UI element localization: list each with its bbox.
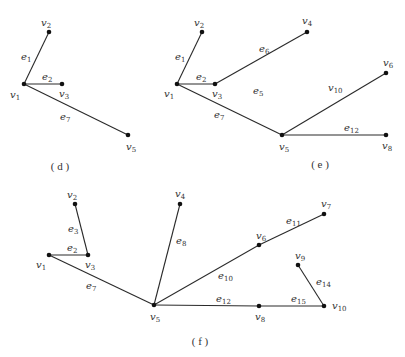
- vertex-dot: [178, 202, 183, 207]
- vertex-label: v1: [36, 259, 46, 272]
- vertex-label: v1: [164, 88, 174, 101]
- vertex-label-subscript: 10: [338, 305, 347, 313]
- vertex-label-subscript: 2: [73, 194, 77, 202]
- edge-label-subscript: 7: [66, 116, 70, 124]
- vertex-label: v6: [256, 230, 267, 243]
- edge-label-subscript: 10: [334, 87, 343, 95]
- edge-label: e2: [42, 71, 52, 84]
- edge-label: e10: [218, 270, 233, 283]
- edge-label: e12: [344, 122, 359, 135]
- edge-label: e11: [286, 215, 301, 228]
- vertex-label-subscript: 3: [218, 93, 222, 101]
- panel-f-spanning-tree: e3e2e7e8e10e11e12e15e14v1v2v3v4v5v6v7v8v…: [36, 188, 347, 348]
- vertex-label: v2: [41, 17, 51, 30]
- vertex-label-subscript: 9: [301, 255, 305, 263]
- vertex-label-subscript: 8: [261, 316, 265, 324]
- vertex-dot: [322, 304, 327, 309]
- vertex-label: v4: [175, 188, 186, 201]
- edge-line: [154, 204, 180, 305]
- edge-label-subscript: 2: [73, 247, 77, 255]
- edge-label-subscript: 15: [297, 298, 306, 306]
- edge-label-floating-subscript: 5: [259, 90, 263, 98]
- edge-label-subscript: 7: [220, 114, 224, 122]
- vertex-dot: [257, 304, 262, 309]
- edge-line: [49, 255, 154, 305]
- vertex-dot: [73, 202, 78, 207]
- edge-label: v10: [328, 82, 343, 95]
- vertex-label-subscript: 4: [181, 193, 186, 201]
- panel-caption: ( e ): [311, 158, 329, 171]
- vertex-label-subscript: 3: [65, 93, 69, 101]
- vertex-dot: [47, 253, 52, 258]
- edge-label: e7: [214, 109, 224, 122]
- vertex-label-subscript: 5: [285, 146, 289, 154]
- vertex-label-subscript: 2: [200, 22, 204, 30]
- edge-label-subscript: 7: [92, 285, 96, 293]
- vertex-label-subscript: 2: [47, 22, 51, 30]
- vertex-dot: [152, 303, 157, 308]
- edge-label: e1: [21, 51, 31, 64]
- edge-label-subscript: 10: [224, 275, 233, 283]
- vertex-dot: [47, 30, 52, 35]
- vertex-label: v6: [383, 57, 394, 70]
- vertex-label: v1: [10, 89, 20, 102]
- edge-label-floating: e5: [253, 85, 263, 98]
- edge-label-subscript: 2: [48, 76, 52, 84]
- edge-label-subscript: 2: [202, 76, 206, 84]
- panel-e-spanning-tree: e1e2e6e7v10e12e5v1v2v3v4v5v6v8( e ): [164, 15, 394, 171]
- edge-label: e2: [67, 242, 77, 255]
- edge-label: e6: [259, 43, 270, 56]
- vertex-label: v8: [382, 140, 392, 153]
- edge-label-subscript: 3: [74, 228, 78, 236]
- vertex-dot: [60, 82, 65, 87]
- vertex-dot: [86, 253, 91, 258]
- vertex-label: v9: [295, 250, 305, 263]
- edge-label-subscript: 14: [322, 281, 331, 289]
- vertex-dot: [384, 71, 389, 76]
- vertex-label: v5: [150, 311, 160, 324]
- vertex-label: v2: [67, 189, 77, 202]
- vertex-label-subscript: 3: [91, 264, 95, 272]
- vertex-dot: [175, 82, 180, 87]
- vertex-dot: [384, 133, 389, 138]
- vertex-label-subscript: 7: [327, 203, 331, 211]
- vertex-label: v10: [332, 300, 347, 313]
- edge-line: [282, 73, 386, 135]
- vertex-label: v3: [85, 259, 95, 272]
- vertex-label-subscript: 1: [16, 94, 20, 102]
- vertex-label: v3: [59, 88, 69, 101]
- vertex-dot: [280, 133, 285, 138]
- vertex-label-subscript: 5: [132, 146, 136, 154]
- vertex-dot: [126, 133, 131, 138]
- edge-label: e8: [176, 235, 186, 248]
- panel-caption: ( d ): [51, 160, 70, 173]
- vertex-label: v5: [279, 141, 289, 154]
- edge-label-subscript: 1: [181, 56, 185, 64]
- edge-line: [177, 84, 282, 135]
- panel-caption: ( f ): [192, 335, 209, 348]
- edge-line: [24, 84, 128, 135]
- vertex-dot: [296, 263, 301, 268]
- vertex-label-subscript: 6: [262, 235, 267, 243]
- vertex-dot: [213, 82, 218, 87]
- edge-label: e7: [60, 111, 70, 124]
- vertex-label: v8: [255, 311, 265, 324]
- edge-label-subscript: 11: [292, 220, 301, 228]
- vertex-label: v2: [194, 17, 204, 30]
- vertex-label-subscript: 1: [42, 264, 46, 272]
- edge-label-subscript: 1: [27, 56, 31, 64]
- edge-label: e2: [196, 71, 206, 84]
- edge-label: e12: [216, 293, 231, 306]
- edge-line: [154, 305, 259, 306]
- vertex-label: v4: [302, 15, 313, 28]
- vertex-label: v3: [212, 88, 222, 101]
- edge-label: e1: [175, 51, 185, 64]
- vertex-label-subscript: 4: [308, 20, 313, 28]
- graph-diagram-canvas: e1e2e7v1v2v3v5( d ) e1e2e6e7v10e12e5v1v2…: [0, 0, 405, 357]
- vertex-label-subscript: 5: [156, 316, 160, 324]
- vertex-label: v7: [321, 198, 331, 211]
- vertex-label: v5: [126, 141, 136, 154]
- edge-label: e3: [68, 223, 78, 236]
- vertex-label-subscript: 6: [389, 62, 394, 70]
- edge-label-subscript: 12: [350, 127, 359, 135]
